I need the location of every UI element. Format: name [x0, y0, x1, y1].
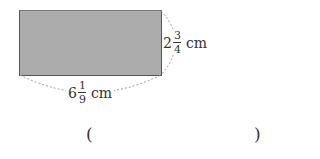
- width-whole: 6: [68, 85, 77, 101]
- width-fraction: 1 9: [78, 80, 87, 105]
- answer-blank[interactable]: [100, 124, 250, 144]
- answer-close-paren: ): [254, 124, 261, 144]
- width-denominator: 9: [78, 94, 87, 105]
- height-unit: cm: [186, 35, 207, 51]
- height-whole: 2: [163, 35, 172, 51]
- height-fraction: 3 4: [173, 30, 182, 55]
- width-numerator: 1: [78, 80, 87, 91]
- width-label: 6 1 9 cm: [66, 80, 114, 105]
- answer-open-paren: (: [86, 124, 93, 144]
- height-denominator: 4: [173, 44, 182, 55]
- height-label: 2 3 4 cm: [163, 30, 207, 55]
- width-unit: cm: [91, 85, 112, 101]
- height-numerator: 3: [173, 30, 182, 41]
